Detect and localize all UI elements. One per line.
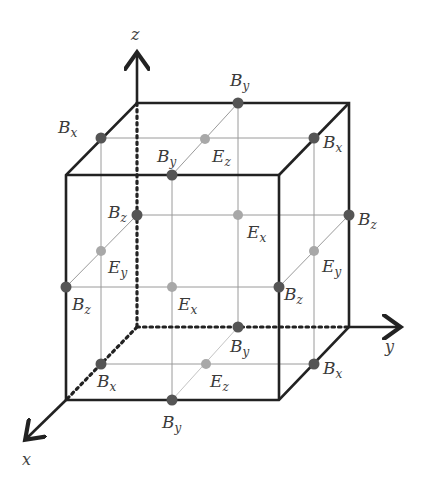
b-field-dot bbox=[132, 210, 143, 221]
b-field-dot bbox=[96, 359, 107, 370]
b-field-dot bbox=[167, 170, 178, 181]
field-label: By bbox=[229, 336, 250, 359]
b-field-dot bbox=[274, 282, 285, 293]
field-label: Bz bbox=[71, 294, 92, 317]
field-label: By bbox=[156, 146, 177, 169]
e-field-dot bbox=[309, 246, 319, 256]
field-label: Bz bbox=[107, 202, 128, 225]
z-axis-label: z bbox=[130, 25, 140, 44]
b-field-dot bbox=[309, 133, 320, 144]
field-label: Ey bbox=[107, 257, 127, 280]
field-label: Ez bbox=[211, 146, 231, 169]
b-field-dot bbox=[309, 359, 320, 370]
field-label: Bz bbox=[357, 209, 378, 232]
b-field-dot bbox=[96, 133, 107, 144]
e-field-dot bbox=[96, 246, 106, 256]
b-field-dot bbox=[233, 322, 244, 333]
field-label: By bbox=[229, 70, 250, 93]
b-field-dot bbox=[233, 98, 244, 109]
field-label: Ex bbox=[246, 222, 266, 245]
b-field-dot bbox=[167, 395, 178, 406]
field-point-bx-top-left: Bx bbox=[57, 117, 107, 144]
field-label: By bbox=[161, 412, 182, 435]
field-label: Ez bbox=[209, 371, 229, 394]
b-field-dot bbox=[61, 282, 72, 293]
field-label: Bx bbox=[322, 132, 343, 155]
x-axis-label: x bbox=[22, 450, 31, 469]
x-axis bbox=[27, 400, 66, 438]
y-axis-label: y bbox=[384, 337, 395, 356]
field-point-bx-bottom-right: Bx bbox=[309, 358, 343, 381]
field-label: Bx bbox=[96, 371, 117, 394]
b-field-dot bbox=[344, 210, 355, 221]
field-label: Bz bbox=[283, 284, 304, 307]
e-field-dot bbox=[201, 359, 211, 369]
field-label: Bx bbox=[57, 117, 78, 140]
yee-cell-diagram: z y x BxByEzBxByBzExBzEyEyBzExBzByBxEzBx… bbox=[0, 0, 421, 486]
field-label: Bx bbox=[322, 358, 343, 381]
e-field-dot bbox=[200, 134, 210, 144]
field-label: Ex bbox=[177, 294, 197, 317]
field-point-ez-top: Ez bbox=[200, 134, 231, 169]
field-label: Ey bbox=[321, 256, 341, 279]
e-field-dot bbox=[233, 210, 243, 220]
e-field-dot bbox=[167, 282, 177, 292]
